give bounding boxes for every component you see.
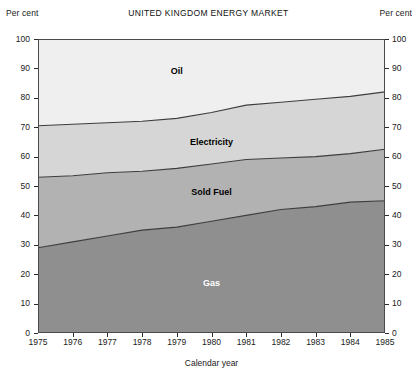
y-tick-mark-left-50 (34, 186, 38, 187)
x-tick-label-1985: 1985 (365, 337, 405, 347)
y-tick-mark-left-70 (34, 127, 38, 128)
y-tick-label-left-30: 30 (6, 239, 30, 249)
y-tick-label-left-70: 70 (6, 122, 30, 132)
y-tick-mark-right-20 (385, 274, 389, 275)
y-tick-mark-right-10 (385, 304, 389, 305)
y-tick-mark-left-20 (34, 274, 38, 275)
y-tick-label-left-90: 90 (6, 63, 30, 73)
y-tick-mark-left-90 (34, 68, 38, 69)
y-tick-label-left-80: 80 (6, 92, 30, 102)
series-label-oil: Oil (171, 66, 183, 76)
y-tick-label-right-50: 50 (392, 181, 416, 191)
x-tick-mark-1984 (350, 333, 351, 337)
y-tick-label-right-100: 100 (392, 34, 416, 44)
y-tick-mark-right-90 (385, 68, 389, 69)
series-label-sold-fuel: Sold Fuel (191, 187, 232, 197)
y-tick-mark-right-50 (385, 186, 389, 187)
x-tick-mark-1977 (107, 333, 108, 337)
y-tick-label-right-30: 30 (392, 239, 416, 249)
y-tick-mark-left-60 (34, 157, 38, 158)
x-tick-mark-1979 (177, 333, 178, 337)
x-axis-title: Calendar year (38, 358, 385, 368)
y-tick-label-right-10: 10 (392, 298, 416, 308)
y-tick-label-right-80: 80 (392, 92, 416, 102)
y-tick-mark-left-80 (34, 98, 38, 99)
y-tick-label-right-60: 60 (392, 151, 416, 161)
x-tick-mark-1980 (212, 333, 213, 337)
y-tick-label-left-0: 0 (6, 328, 30, 338)
y-tick-label-left-10: 10 (6, 298, 30, 308)
y-tick-mark-left-100 (34, 39, 38, 40)
x-tick-mark-1978 (142, 333, 143, 337)
x-tick-mark-1983 (316, 333, 317, 337)
y-tick-label-right-0: 0 (392, 328, 416, 338)
y-tick-mark-right-70 (385, 127, 389, 128)
y-tick-label-right-20: 20 (392, 269, 416, 279)
y-tick-mark-right-0 (385, 333, 389, 334)
y-tick-label-right-40: 40 (392, 210, 416, 220)
x-tick-mark-1982 (281, 333, 282, 337)
chart-figure: Per cent Per cent UNITED KINGDOM ENERGY … (0, 0, 417, 379)
y-tick-label-right-70: 70 (392, 122, 416, 132)
y-tick-label-left-20: 20 (6, 269, 30, 279)
y-tick-mark-left-0 (34, 333, 38, 334)
y-tick-label-right-90: 90 (392, 63, 416, 73)
x-tick-mark-1981 (246, 333, 247, 337)
y-tick-mark-right-100 (385, 39, 389, 40)
y-tick-mark-right-30 (385, 245, 389, 246)
y-tick-mark-left-10 (34, 304, 38, 305)
y-tick-label-left-50: 50 (6, 181, 30, 191)
chart-title: UNITED KINGDOM ENERGY MARKET (0, 8, 417, 18)
y-tick-label-left-100: 100 (6, 34, 30, 44)
y-tick-label-left-60: 60 (6, 151, 30, 161)
y-tick-mark-right-60 (385, 157, 389, 158)
series-label-electricity: Electricity (190, 137, 233, 147)
y-tick-mark-left-30 (34, 245, 38, 246)
series-label-gas: Gas (203, 278, 220, 288)
y-tick-mark-left-40 (34, 215, 38, 216)
y-tick-mark-right-80 (385, 98, 389, 99)
y-tick-label-left-40: 40 (6, 210, 30, 220)
y-tick-mark-right-40 (385, 215, 389, 216)
x-tick-mark-1976 (73, 333, 74, 337)
